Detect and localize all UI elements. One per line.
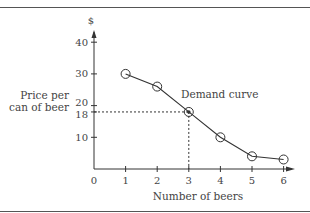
- highlight-dot: [187, 110, 191, 114]
- y-tick-label: 20: [75, 97, 88, 108]
- x-tick-label: 4: [217, 175, 223, 186]
- x-axis-title: Number of beers: [153, 190, 243, 202]
- x-tick-label: 6: [280, 175, 286, 186]
- y-unit-label: $: [88, 15, 94, 26]
- demand-curve: [121, 69, 288, 164]
- x-tick-label: 1: [122, 175, 128, 186]
- curve-label: Demand curve: [181, 88, 258, 100]
- y-tick-label: 10: [75, 132, 88, 143]
- demand-chart: 10182030400123456 $ Price per can of bee…: [0, 0, 310, 213]
- x-tick-label: 2: [154, 175, 160, 186]
- y-axis-title-line1: Price per: [20, 89, 70, 101]
- x-axis-arrow-icon: [286, 167, 295, 172]
- x-tick-label: 5: [249, 175, 255, 186]
- tick-labels: 10182030400123456: [75, 37, 287, 186]
- y-tick-label: 18: [75, 109, 88, 120]
- demand-line: [126, 74, 284, 160]
- y-axis-arrow-icon: [92, 30, 97, 38]
- axes: [91, 30, 295, 172]
- x-tick-label: 3: [186, 175, 192, 186]
- y-axis-title-line2: can of beer: [9, 101, 70, 113]
- x-tick-label: 0: [91, 175, 97, 186]
- y-tick-label: 40: [75, 37, 88, 48]
- y-tick-label: 30: [75, 68, 88, 79]
- dashed-guides: [94, 112, 189, 169]
